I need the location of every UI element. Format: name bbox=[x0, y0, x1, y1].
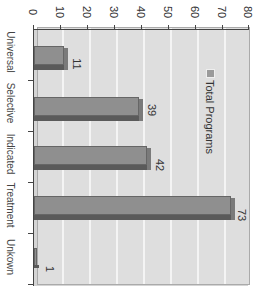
category-label: Unkown bbox=[3, 227, 17, 287]
bar-cap bbox=[147, 148, 151, 170]
tick-label: 0 bbox=[23, 5, 43, 19]
value-label: 42 bbox=[153, 153, 167, 177]
tick-label: 30 bbox=[104, 5, 124, 19]
tick-label: 60 bbox=[185, 5, 205, 19]
bar-indicated bbox=[34, 146, 147, 165]
tick bbox=[114, 25, 115, 29]
tick-label: 20 bbox=[77, 5, 97, 19]
tick-label: 70 bbox=[212, 5, 232, 19]
tick-label: 50 bbox=[158, 5, 178, 19]
value-label: 39 bbox=[145, 98, 159, 122]
category-tick bbox=[28, 182, 33, 183]
tick bbox=[87, 25, 88, 29]
bar-cap bbox=[64, 48, 68, 70]
tick-label: 40 bbox=[131, 5, 151, 19]
tick-label: 80 bbox=[238, 5, 257, 19]
category-label: Treatment bbox=[3, 175, 17, 235]
bar-shadow bbox=[34, 116, 141, 121]
bar-shadow bbox=[34, 65, 66, 70]
tick bbox=[60, 25, 61, 29]
bar-cap bbox=[139, 99, 143, 121]
gridline bbox=[224, 28, 226, 284]
gridline bbox=[197, 28, 199, 284]
value-label: 1 bbox=[43, 257, 57, 281]
tick bbox=[248, 25, 249, 29]
tick bbox=[141, 25, 142, 29]
bar-shadow bbox=[34, 265, 39, 268]
value-axis bbox=[33, 29, 249, 30]
tick bbox=[195, 25, 196, 29]
category-tick bbox=[28, 80, 33, 81]
category-tick bbox=[28, 284, 33, 285]
value-label: 73 bbox=[235, 203, 249, 227]
category-tick bbox=[28, 131, 33, 132]
bar-shadow bbox=[34, 215, 233, 220]
value-label: 11 bbox=[70, 52, 84, 76]
tick bbox=[222, 25, 223, 29]
gridline bbox=[170, 28, 172, 284]
bar-selective bbox=[34, 97, 139, 116]
bar-universal bbox=[34, 46, 64, 65]
tick bbox=[168, 25, 169, 29]
bar-treatment bbox=[34, 196, 231, 215]
tick-label: 10 bbox=[50, 5, 70, 19]
legend-label: Total Programs bbox=[203, 77, 217, 157]
bar-shadow bbox=[34, 165, 149, 170]
category-tick bbox=[28, 233, 33, 234]
